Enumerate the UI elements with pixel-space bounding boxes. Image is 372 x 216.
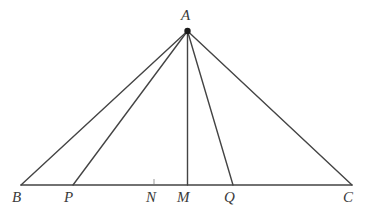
vertex-label-C: C [343,190,353,205]
segment-ac [188,31,353,185]
vertex-label-A: A [181,8,190,23]
cevian-aq [188,31,234,185]
vertex-label-Q: Q [224,190,235,205]
cevian-ap [73,31,188,185]
vertex-label-N: N [146,190,156,205]
vertex-label-M: M [177,190,190,205]
geometry-canvas [0,0,372,216]
vertex-label-B: B [12,190,21,205]
vertex-label-P: P [64,190,73,205]
geometry-figure: A B P N M Q C [0,0,372,216]
segment-ab [21,31,188,185]
vertex-dot-a [184,28,190,34]
